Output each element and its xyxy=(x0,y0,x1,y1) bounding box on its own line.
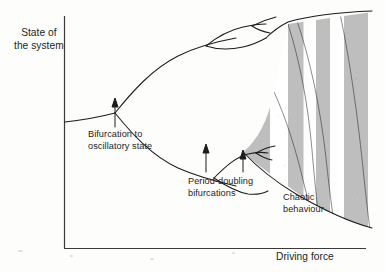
annotation-bifurcation-to-oscillatory-state: Bifurcation to oscillatory state xyxy=(88,129,152,152)
y-axis-label: State of the system xyxy=(14,26,64,52)
scan-speck xyxy=(18,250,23,252)
arrow-bifurcation xyxy=(112,98,118,127)
periodic-window-3 xyxy=(368,6,371,236)
scan-speck xyxy=(232,252,235,254)
x-axis-label: Driving force xyxy=(276,251,334,263)
scan-speck xyxy=(70,255,73,257)
branch-steady-state xyxy=(65,113,115,122)
annotation-chaotic-behaviour: Chaotic behaviour xyxy=(283,192,324,215)
periodic-window-2 xyxy=(331,6,338,236)
annotation-period-doubling-bifurcations: Period-doubling bifurcations xyxy=(188,176,253,199)
branch-upper-tertiary-b xyxy=(252,26,270,33)
scan-speck xyxy=(150,258,154,260)
branch-upper-tertiary-a xyxy=(252,17,276,26)
branch-upper-primary xyxy=(115,38,236,113)
arrow-period-doubling-left xyxy=(203,144,209,172)
bifurcation-figure: State of the system Driving force Bifurc… xyxy=(0,0,385,272)
